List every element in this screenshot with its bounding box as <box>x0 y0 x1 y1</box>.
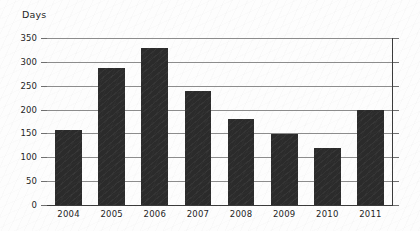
y-axis-tick-mark <box>41 38 47 39</box>
y-axis-tick-mark <box>41 205 47 206</box>
bar-2007 <box>185 91 212 206</box>
y-axis-tick-mark <box>41 86 47 87</box>
bar-2006 <box>141 48 168 205</box>
bar-chart: Days 050100150200250300350 2004200520062… <box>0 0 420 231</box>
right-axis-tick-mark <box>392 181 399 182</box>
y-axis-tick-label: 350 <box>20 33 37 43</box>
y-axis-tick-mark <box>41 181 47 182</box>
y-axis-tick-label: 100 <box>20 152 37 162</box>
x-axis-tick-label: 2011 <box>359 209 381 219</box>
right-axis-tick-mark <box>392 133 399 134</box>
right-axis-spine <box>392 38 393 206</box>
bar-2011 <box>357 110 384 205</box>
x-axis-tick-label: 2010 <box>316 209 338 219</box>
bar-series <box>47 0 392 231</box>
y-axis-tick-label: 200 <box>20 105 37 115</box>
x-axis-tick-label: 2009 <box>273 209 295 219</box>
y-axis-tick-label: 300 <box>20 57 37 67</box>
x-axis-tick-label: 2004 <box>57 209 79 219</box>
right-axis-tick-mark <box>392 62 399 63</box>
right-axis-tick-mark <box>392 110 399 111</box>
bar-2005 <box>98 68 125 205</box>
y-axis-tick-mark <box>41 133 47 134</box>
bar-2008 <box>228 119 255 205</box>
x-axis-tick-label: 2005 <box>100 209 122 219</box>
x-axis-tick-label: 2007 <box>187 209 209 219</box>
x-axis-tick-labels: 20042005200620072008200920102011 <box>47 209 392 227</box>
y-axis-tick-label: 0 <box>31 200 37 210</box>
x-axis-tick-label: 2008 <box>230 209 252 219</box>
y-axis-tick-mark <box>41 157 47 158</box>
right-axis-tick-mark <box>392 205 399 206</box>
y-axis-tick-mark <box>41 62 47 63</box>
y-axis-tick-label: 150 <box>20 128 37 138</box>
bar-2004 <box>55 130 82 205</box>
y-axis-tick-label: 50 <box>26 176 37 186</box>
y-axis-tick-mark <box>41 110 47 111</box>
x-axis-tick-label: 2006 <box>144 209 166 219</box>
y-axis-tick-labels: 050100150200250300350 <box>0 0 47 231</box>
bar-2009 <box>271 134 298 205</box>
bar-2010 <box>314 148 341 205</box>
right-axis-tick-mark <box>392 38 399 39</box>
right-axis-tick-mark <box>392 86 399 87</box>
y-axis-tick-label: 250 <box>20 81 37 91</box>
right-axis-tick-mark <box>392 157 399 158</box>
